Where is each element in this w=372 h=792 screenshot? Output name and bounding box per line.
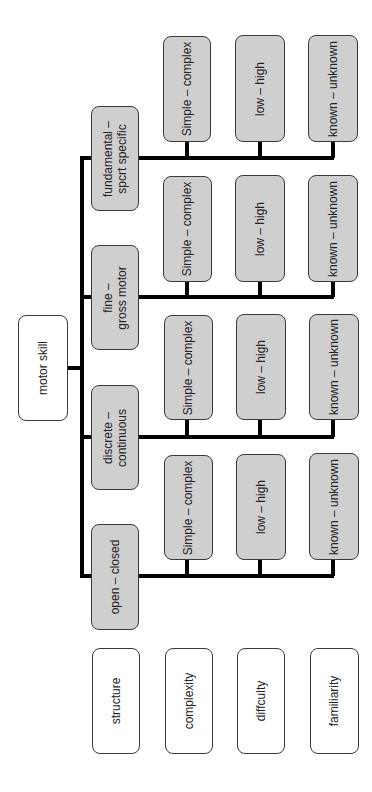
root-node-motor-skill: motor skill: [18, 315, 68, 421]
familiarity-label: known – unknown: [326, 180, 340, 276]
stub-4b: [258, 559, 262, 576]
familiarity-label: known – unknown: [327, 458, 341, 554]
category-label: open – closed: [108, 540, 122, 615]
stub-2c: [331, 281, 335, 297]
difficulty-node-4: low – high: [236, 454, 286, 560]
category-node-fundamental-sport-specific: fundamental –spcrt specific: [91, 106, 139, 211]
complexity-node-3: Simple – complex: [164, 315, 213, 420]
stub-1b: [258, 141, 262, 158]
complexity-node-4: Simple – complex: [164, 455, 213, 560]
category-label: fine –gross motor: [101, 266, 129, 329]
complexity-label: Simple – complex: [182, 320, 196, 415]
complexity-label: Simple – complex: [181, 182, 195, 277]
root-connector: [66, 366, 82, 370]
complexity-node-2: Simple – complex: [163, 176, 212, 282]
complexity-node-1: Simple – complex: [163, 36, 211, 142]
difficulty-node-3: low – high: [236, 314, 286, 420]
difficulty-node-1: low – high: [235, 35, 285, 142]
legend-label: diffculty: [254, 681, 268, 721]
familiarity-node-1: known – unknown: [308, 35, 358, 142]
stub-2b: [258, 281, 262, 297]
difficulty-label: low – high: [254, 480, 268, 534]
category-node-discrete-continuous: discrete –continuous: [91, 385, 139, 490]
familiarity-label: known – unknown: [326, 40, 340, 136]
stub-3b: [258, 419, 262, 437]
familiarity-node-4: known – unknown: [309, 453, 359, 560]
difficulty-label: low – high: [254, 340, 268, 394]
legend-familiarity: familiarity: [310, 648, 359, 754]
stub-3c: [331, 419, 335, 437]
stub-2a: [185, 281, 189, 297]
familiarity-node-2: known – unknown: [308, 175, 358, 282]
legend-label: complexity: [182, 673, 196, 730]
familiarity-label: known – unknown: [327, 319, 341, 415]
difficulty-label: low – high: [253, 61, 267, 115]
stub-3a: [185, 419, 189, 437]
stub-4c: [331, 559, 335, 576]
stub-1c: [331, 141, 335, 158]
familiarity-node-3: known – unknown: [309, 314, 359, 420]
category-node-fine-gross-motor: fine –gross motor: [91, 245, 139, 350]
category-label: fundamental –spcrt specific: [101, 120, 129, 196]
category-node-open-closed: open – closed: [91, 524, 139, 630]
difficulty-label: low – high: [253, 201, 267, 255]
stub-4a: [185, 559, 189, 576]
category-label: discrete –continuous: [101, 408, 129, 466]
legend-label: familiarity: [328, 676, 342, 727]
legend-structure: structure: [92, 648, 140, 754]
complexity-label: Simple – complex: [180, 42, 194, 137]
difficulty-node-2: low – high: [235, 175, 285, 282]
legend-label: structure: [109, 678, 123, 725]
legend-complexity: complexity: [165, 648, 213, 754]
complexity-label: Simple – complex: [182, 460, 196, 555]
stub-1a: [185, 141, 189, 158]
legend-difficulty: diffculty: [237, 648, 285, 754]
root-label: motor skill: [36, 341, 50, 395]
